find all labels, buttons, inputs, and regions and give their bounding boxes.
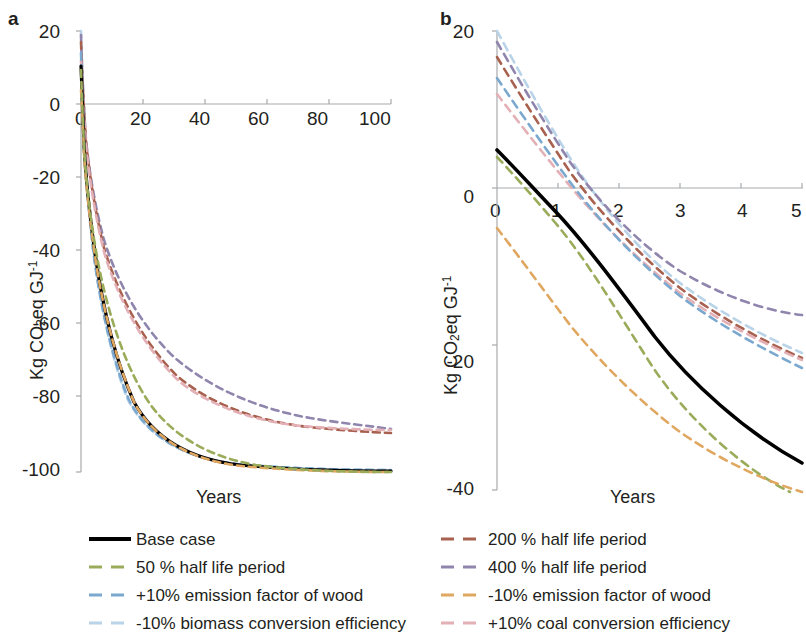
series-400-half-life [81,35,391,429]
series-50-half-life [81,70,391,472]
legend-left-column: Base case 50 % half life period +10% emi… [88,525,406,636]
panel-a-ytick-neg40: -40 [14,240,60,262]
panel-a-ylabel: Kg CO2eq GJ-1 [26,261,48,380]
legend-item-200-half-life[interactable]: 200 % half life period [440,525,730,553]
legend-label-50-half-life: 50 % half life period [136,559,285,576]
series-plus10-coal-conv-eff [81,60,391,430]
legend-swatch-base-case [88,532,132,546]
legend-swatch-plus10-emission-factor [88,588,132,602]
panel-a-xtick-20: 20 [130,108,151,130]
legend-label-neg10-emission-factor: -10% emission factor of wood [488,587,711,604]
legend-label-plus10-coal-conv-eff: +10% coal conversion efficiency [488,615,730,632]
panel-a-ytick-neg80: -80 [14,386,60,408]
panel-b-ytick-neg40: -40 [428,478,474,500]
panel-b-ytick-20: 20 [428,21,474,43]
legend-item-400-half-life[interactable]: 400 % half life period [440,553,730,581]
series-plus10-emission-factor [497,78,802,368]
panel-a-xtick-80: 80 [307,108,328,130]
panel-b-series [497,31,802,492]
legend-item-neg10-biomass-conv-eff[interactable]: -10% biomass conversion efficiency [88,609,406,636]
legend-item-base-case[interactable]: Base case [88,525,406,553]
series-neg10-biomass-conv-eff [81,31,391,470]
series-base-case [81,66,391,471]
panel-a-series [81,31,391,472]
panel-b-xtick-5: 5 [791,200,802,222]
panel-a-xlabel: Years [196,487,241,508]
panel-a-ytick-0: 0 [14,94,60,116]
panel-b-xtick-3: 3 [675,200,686,222]
panel-a-xtick-60: 60 [248,108,269,130]
panel-b-ytick-0: 0 [428,186,474,208]
panel-a-ytick-neg100: -100 [14,459,60,481]
panel-a-ytick-20: 20 [14,21,60,43]
panel-b-ylabel: Kg CO2eq GJ-1 [440,276,462,395]
panel-b-xlabel: Years [610,487,655,508]
series-base-case [497,150,802,463]
series-200-half-life [497,57,802,358]
panel-b-xtick-1: 1 [551,200,562,222]
legend-label-neg10-biomass-conv-eff: -10% biomass conversion efficiency [136,615,406,632]
legend-right-column: 200 % half life period 400 % half life p… [440,525,730,636]
legend-item-plus10-coal-conv-eff[interactable]: +10% coal conversion efficiency [440,609,730,636]
legend-label-plus10-emission-factor: +10% emission factor of wood [136,587,363,604]
panel-b-xtick-4: 4 [737,200,748,222]
legend-label-200-half-life: 200 % half life period [488,531,647,548]
legend-swatch-200-half-life [440,532,484,546]
legend-item-50-half-life[interactable]: 50 % half life period [88,553,406,581]
legend-swatch-neg10-emission-factor [440,588,484,602]
legend-swatch-plus10-coal-conv-eff [440,616,484,630]
panel-b-axis-lines [492,31,803,490]
legend-swatch-neg10-biomass-conv-eff [88,616,132,630]
series-400-half-life [497,42,802,315]
panel-b-xtick-2: 2 [613,200,624,222]
panel-a-xtick-0: 0 [75,108,86,130]
panel-a-ytick-neg20: -20 [14,167,60,189]
legend-item-plus10-emission-factor[interactable]: +10% emission factor of wood [88,581,406,609]
legend-label-400-half-life: 400 % half life period [488,559,647,576]
series-plus10-coal-conv-eff [497,94,802,360]
panel-a-xtick-100: 100 [359,108,391,130]
series-neg10-emission-factor [497,228,802,492]
legend-swatch-50-half-life [88,560,132,574]
series-neg10-emission-factor [81,90,391,472]
series-neg10-biomass-conv-eff [497,31,802,353]
legend-label-base-case: Base case [136,531,215,548]
legend-item-neg10-emission-factor[interactable]: -10% emission factor of wood [440,581,730,609]
panel-b-xtick-0: 0 [490,200,501,222]
panel-a-xtick-40: 40 [189,108,210,130]
series-200-half-life [81,42,391,433]
panel-a-axis-lines [76,31,391,472]
legend-swatch-400-half-life [440,560,484,574]
series-plus10-emission-factor [81,53,391,470]
